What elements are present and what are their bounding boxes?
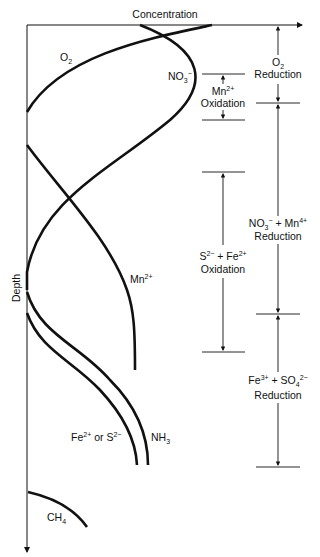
y-axis-label: Depth (10, 274, 22, 302)
ch4-label: CH4 (47, 511, 66, 525)
mn2-oxidation-label-2: Oxidation (201, 97, 246, 109)
mn2-curve (27, 145, 135, 370)
x-axis-label: Concentration (132, 8, 198, 20)
s-fe-oxidation-label-2: Oxidation (201, 263, 246, 275)
redox-zonation-diagram: Concentration Depth O2 NO3− Mn2+ Fe2+ or… (0, 0, 320, 557)
no3-curve (27, 25, 195, 290)
fe3-so4-reduction-label-1: Fe3+ + SO42− (248, 374, 307, 388)
o2-curve (27, 25, 212, 112)
fe-s-label: Fe2+ or S2− (71, 431, 121, 443)
s-fe-oxidation-label-1: S2− + Fe2+ (199, 250, 246, 262)
no3-mn4-reduction-zone (256, 105, 300, 314)
nh3-label: NH3 (151, 431, 170, 445)
s-fe-oxidation-zone (202, 172, 245, 352)
fe3-so4-reduction-label-2: Reduction (254, 389, 301, 401)
o2-reduction-label-2: Reduction (254, 68, 301, 80)
no3-mn4-reduction-label-2: Reduction (254, 230, 301, 242)
no3-label: NO3− (168, 70, 192, 84)
o2-label: O2 (60, 51, 72, 65)
no3-mn4-reduction-label-1: NO3− + Mn4+ (249, 217, 307, 231)
mn2-oxidation-label-1: Mn2+ (212, 85, 235, 97)
mn2-label: Mn2+ (130, 273, 153, 285)
